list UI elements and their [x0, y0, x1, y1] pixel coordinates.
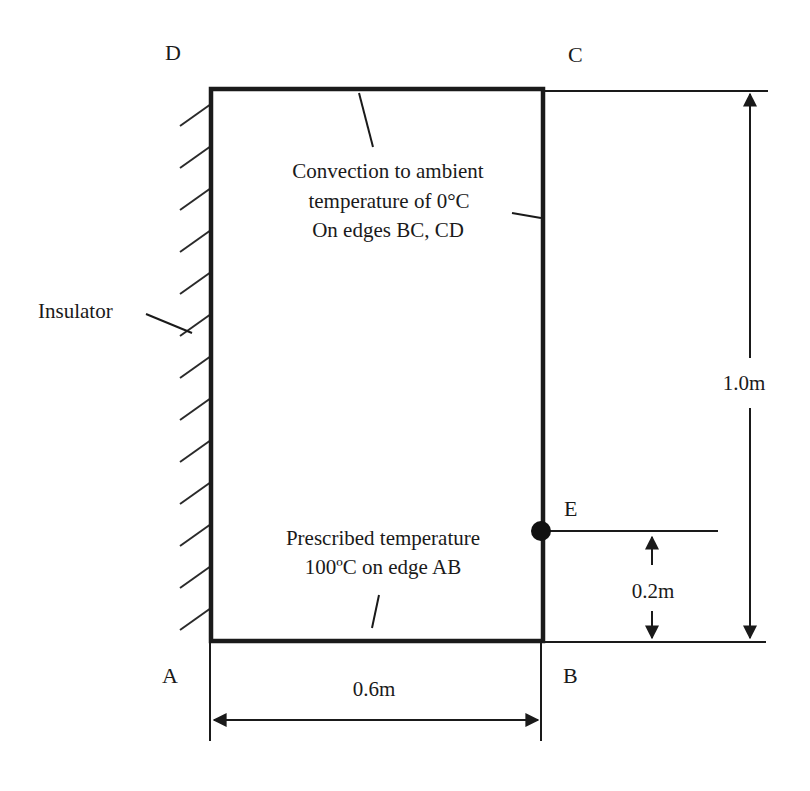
- convection-note-line2: temperature of 0°C: [308, 189, 469, 213]
- corner-label-a: A: [162, 663, 178, 688]
- extension-lines: [210, 91, 768, 741]
- insulator-leader: [146, 314, 192, 333]
- corner-label-d: D: [165, 40, 181, 65]
- dimension-width-label: 0.6m: [353, 677, 396, 701]
- diagram-canvas: 1.0m 0.2m 0.6m E D C A B Convection to a…: [0, 0, 810, 791]
- convection-leader-top: [359, 93, 373, 147]
- corner-label-b: B: [563, 663, 578, 688]
- prescribed-note-line2: 100ºC on edge AB: [305, 555, 461, 579]
- insulator-hatching: [180, 104, 211, 630]
- prescribed-leader: [372, 595, 379, 628]
- point-e-label: E: [564, 496, 577, 521]
- prescribed-note-line1: Prescribed temperature: [286, 526, 480, 550]
- convection-note-line1: Convection to ambient: [292, 159, 483, 183]
- convection-leader-right: [512, 213, 541, 218]
- dimension-e-offset-label: 0.2m: [632, 579, 675, 603]
- corner-label-c: C: [568, 42, 583, 67]
- convection-note-line3: On edges BC, CD: [312, 218, 464, 242]
- point-e-marker: [531, 521, 551, 541]
- dimension-height-label: 1.0m: [723, 371, 766, 395]
- insulator-label: Insulator: [38, 299, 113, 323]
